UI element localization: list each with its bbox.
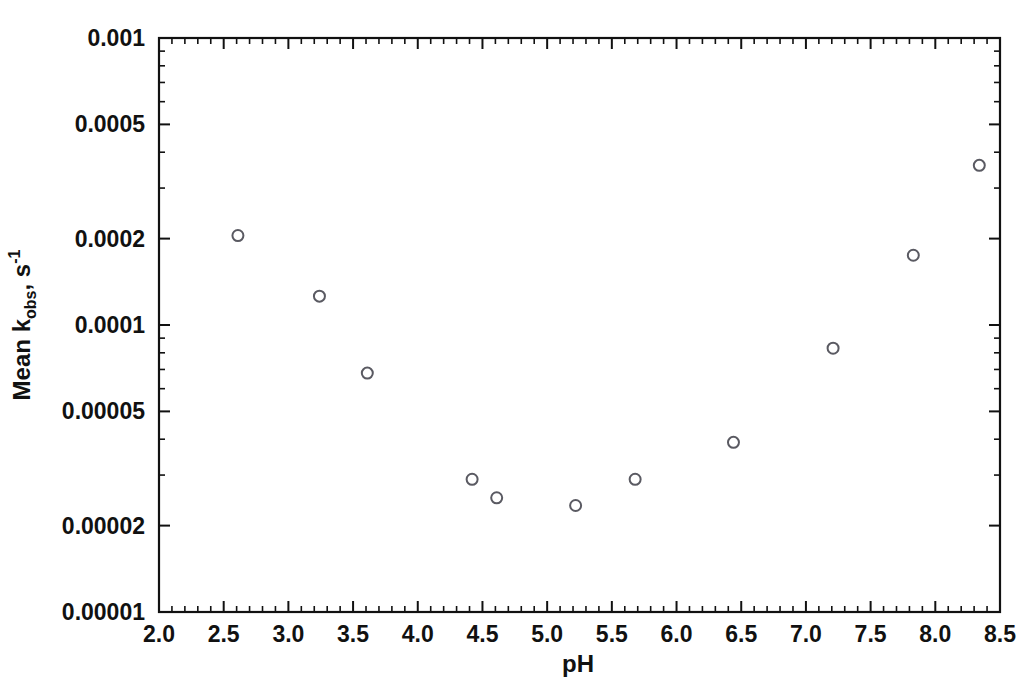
x-tick-label: 2.5 <box>208 621 240 647</box>
x-tick-label: 5.0 <box>531 621 563 647</box>
y-tick-label: 0.0001 <box>75 312 146 338</box>
x-tick-label: 3.0 <box>272 621 304 647</box>
y-axis-title-prefix: Mean k <box>8 318 35 400</box>
x-tick-label: 8.5 <box>984 621 1016 647</box>
x-tick-label: 7.0 <box>790 621 822 647</box>
x-axis-title: pH <box>562 650 594 677</box>
y-tick-label: 0.00005 <box>62 398 145 424</box>
x-tick-label: 4.5 <box>466 621 498 647</box>
x-tick-label: 4.0 <box>402 621 434 647</box>
x-tick-label: 7.5 <box>855 621 887 647</box>
x-tick-label: 5.5 <box>596 621 628 647</box>
y-axis-title-subscript: obs <box>22 290 39 319</box>
y-tick-label: 0.001 <box>87 25 145 51</box>
y-tick-label: 0.00001 <box>62 599 145 625</box>
y-axis-title-middle: , s <box>8 264 35 291</box>
scatter-plot: 2.02.53.03.54.04.55.05.56.06.57.07.58.08… <box>0 0 1033 683</box>
x-tick-label: 3.5 <box>337 621 369 647</box>
y-axis-title-superscript: -1 <box>6 250 23 264</box>
y-tick-label: 0.0002 <box>75 226 145 252</box>
y-axis-tick-labels: 0.000010.000020.000050.00010.00020.00050… <box>62 25 145 625</box>
y-tick-label: 0.0005 <box>75 111 146 137</box>
svg-text:Mean kobs, s-1: Mean kobs, s-1 <box>6 250 39 401</box>
x-tick-label: 6.5 <box>725 621 757 647</box>
x-tick-label: 8.0 <box>919 621 951 647</box>
y-tick-label: 0.00002 <box>62 513 145 539</box>
x-tick-label: 6.0 <box>661 621 693 647</box>
chart-container: 2.02.53.03.54.04.55.05.56.06.57.07.58.08… <box>0 0 1033 683</box>
x-tick-label: 2.0 <box>143 621 175 647</box>
y-axis-title: Mean kobs, s-1 <box>6 250 39 401</box>
plot-background <box>0 0 1033 683</box>
